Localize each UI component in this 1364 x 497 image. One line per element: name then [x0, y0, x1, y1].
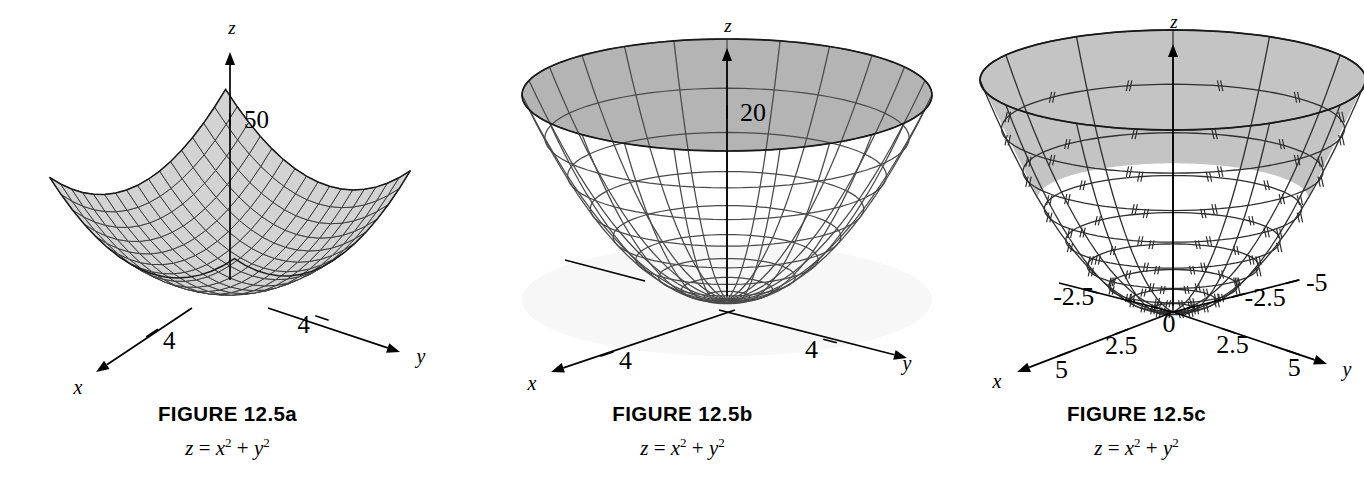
x-tick-4-a [146, 329, 158, 337]
origin-label-c: 0 [1163, 309, 1176, 338]
y-axis-c [1173, 312, 1327, 365]
eq-a-eq: = [199, 436, 211, 460]
eq-c-y: y [1163, 436, 1172, 460]
x-axis-label-a: x [73, 376, 83, 398]
y-tick-neg5-c [1286, 280, 1300, 283]
figure-a-caption-equation: z = x2 + y2 [0, 435, 455, 461]
eq-a-xsup: 2 [225, 435, 232, 450]
eq-b-z: z [640, 436, 648, 460]
x-tick-label-neg2p5-c: -2.5 [1053, 282, 1094, 311]
y-axis-a [268, 308, 400, 353]
eq-c-xsup: 2 [1134, 435, 1141, 450]
x-tick-label-4-a: 4 [163, 327, 176, 354]
z-axis-label-c: z [1169, 11, 1178, 32]
eq-c-z: z [1094, 436, 1102, 460]
eq-c-eq: = [1108, 436, 1120, 460]
figure-c-caption-equation: z = x2 + y2 [909, 435, 1364, 461]
x-axis-a [96, 308, 192, 372]
paraboloid-plot-a: 50z44xy [0, 0, 455, 400]
x-axis-label-c: x [992, 370, 1002, 392]
eq-c-x: x [1125, 436, 1134, 460]
y-tick-4-a [315, 316, 328, 320]
z-axis-label-a: z [227, 17, 236, 38]
figure-c-caption-title: FIGURE 12.5c [909, 402, 1364, 426]
y-tick-label-neg2p5-c: -2.5 [1245, 283, 1286, 312]
eq-a-ysup: 2 [263, 435, 270, 450]
y-tick-label-2p5-c: 2.5 [1216, 330, 1249, 359]
z-tick-label-50-a: 50 [244, 106, 269, 133]
eq-b-y: y [709, 436, 718, 460]
figure-panel-page: 50z44xy FIGURE 12.5a z = x2 + y2 20z44xy… [0, 0, 1364, 497]
y-axis-label-a: y [415, 345, 426, 368]
x-tick-label-2p5-c: 2.5 [1105, 331, 1138, 360]
z-axis-label-b: z [723, 15, 732, 36]
eq-b-xsup: 2 [680, 435, 687, 450]
eq-a-z: z [185, 436, 193, 460]
eq-b-x: x [671, 436, 680, 460]
x-tick-label-4-b: 4 [619, 346, 632, 375]
y-tick-neg2p5-c [1232, 294, 1246, 297]
paraboloid-plot-b: 20z44xy [455, 0, 910, 400]
eq-b-ysup: 2 [718, 435, 725, 450]
figure-a-caption-title: FIGURE 12.5a [0, 402, 455, 426]
y-axis-label-c: y [1341, 358, 1352, 381]
y-tick-label-4-b: 4 [805, 335, 818, 364]
x-axis-label-b: x [527, 372, 537, 394]
x-axis-c [1017, 312, 1173, 372]
figure-12-5a: 50z44xy FIGURE 12.5a z = x2 + y2 [0, 0, 455, 497]
eq-b-plus: + [692, 436, 704, 460]
y-tick-label-5-c: 5 [1288, 353, 1301, 382]
eq-a-y: y [254, 436, 263, 460]
y-tick-label-4-a: 4 [298, 311, 311, 338]
y-tick-label-neg5-c: -5 [1306, 268, 1328, 297]
z-tick-label-20-b: 20 [740, 98, 766, 127]
figure-12-5c: z02.55-2.52.55-2.5-5xy FIGURE 12.5c z = … [909, 0, 1364, 497]
eq-a-plus: + [237, 436, 249, 460]
eq-c-plus: + [1146, 436, 1158, 460]
paraboloid-plot-c: z02.55-2.52.55-2.5-5xy [909, 0, 1364, 400]
eq-b-eq: = [654, 436, 666, 460]
eq-c-ysup: 2 [1172, 435, 1179, 450]
figure-b-caption-title: FIGURE 12.5b [455, 402, 910, 426]
figure-12-5b: 20z44xy FIGURE 12.5b z = x2 + y2 [455, 0, 910, 497]
figure-b-caption-equation: z = x2 + y2 [455, 435, 910, 461]
x-tick-label-5-c: 5 [1055, 355, 1068, 384]
eq-a-x: x [216, 436, 225, 460]
